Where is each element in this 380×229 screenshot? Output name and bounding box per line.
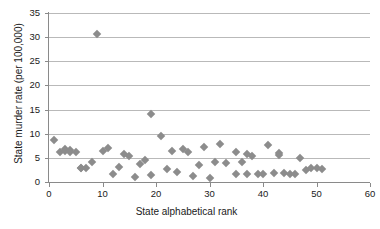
x-tick-mark-60 [370, 183, 371, 187]
x-axis-title: State alphabetical rank [0, 206, 373, 217]
x-tick-mark-30 [210, 183, 211, 187]
data-point [248, 152, 256, 160]
y-tick-mark-10 [45, 134, 49, 135]
data-point [162, 165, 170, 173]
data-point [243, 170, 251, 178]
data-point [259, 170, 267, 178]
data-point [264, 141, 272, 149]
x-tick-label-50: 50 [302, 189, 332, 199]
x-tick-mark-50 [317, 183, 318, 187]
data-point [221, 159, 229, 167]
data-point [318, 165, 326, 173]
gridline-y-5 [49, 158, 370, 159]
data-point [269, 169, 277, 177]
plot-area [49, 13, 370, 182]
gridline-y-15 [49, 110, 370, 111]
data-point [232, 148, 240, 156]
gridline-y-10 [49, 134, 370, 135]
data-point [211, 158, 219, 166]
data-point [146, 171, 154, 179]
data-point [189, 172, 197, 180]
y-tick-mark-20 [45, 85, 49, 86]
data-point [168, 147, 176, 155]
data-point [125, 152, 133, 160]
y-tick-mark-35 [45, 13, 49, 14]
data-point [146, 110, 154, 118]
data-point [205, 173, 213, 181]
data-point [82, 164, 90, 172]
x-tick-label-60: 60 [355, 189, 380, 199]
data-point [173, 168, 181, 176]
x-tick-label-0: 0 [34, 189, 64, 199]
y-tick-mark-5 [45, 158, 49, 159]
x-tick-mark-10 [103, 183, 104, 187]
x-tick-label-10: 10 [88, 189, 118, 199]
data-point [114, 162, 122, 170]
x-tick-mark-40 [263, 183, 264, 187]
data-point [130, 173, 138, 181]
x-tick-label-20: 20 [141, 189, 171, 199]
gridline-y-20 [49, 85, 370, 86]
data-point [216, 140, 224, 148]
x-tick-mark-0 [49, 183, 50, 187]
data-point [109, 170, 117, 178]
data-point [232, 170, 240, 178]
gridline-y-35 [49, 13, 370, 14]
y-tick-mark-25 [45, 61, 49, 62]
data-point [291, 170, 299, 178]
data-point [200, 143, 208, 151]
data-point [296, 154, 304, 162]
y-axis-title: State murder rate (per 100,000) [13, 4, 24, 184]
data-point [195, 161, 203, 169]
gridline-y-25 [49, 61, 370, 62]
x-tick-label-40: 40 [248, 189, 278, 199]
x-tick-label-30: 30 [195, 189, 225, 199]
y-tick-mark-15 [45, 110, 49, 111]
data-point [50, 135, 58, 143]
data-point [72, 148, 80, 156]
data-point [157, 131, 165, 139]
x-tick-mark-20 [156, 183, 157, 187]
y-tick-mark-30 [45, 37, 49, 38]
